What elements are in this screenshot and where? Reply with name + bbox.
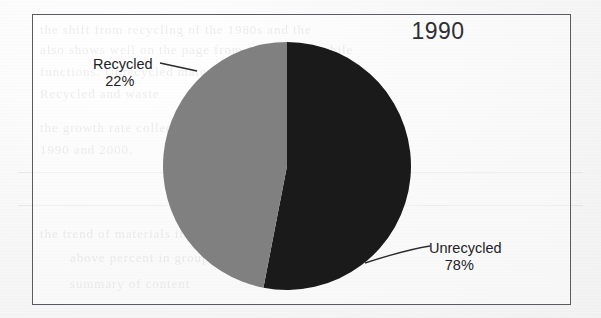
- label-unrecycled-name: Unrecycled: [429, 240, 502, 256]
- label-unrecycled-percent: 78%: [429, 257, 502, 274]
- label-unrecycled: Unrecycled 78%: [429, 240, 502, 274]
- label-recycled: Recycled 22%: [93, 56, 153, 90]
- label-recycled-percent: 22%: [93, 73, 153, 90]
- chart-title: 1990: [363, 18, 513, 45]
- scanned-page: the shift from recycling of the 1980s an…: [0, 0, 601, 318]
- label-recycled-name: Recycled: [93, 56, 153, 72]
